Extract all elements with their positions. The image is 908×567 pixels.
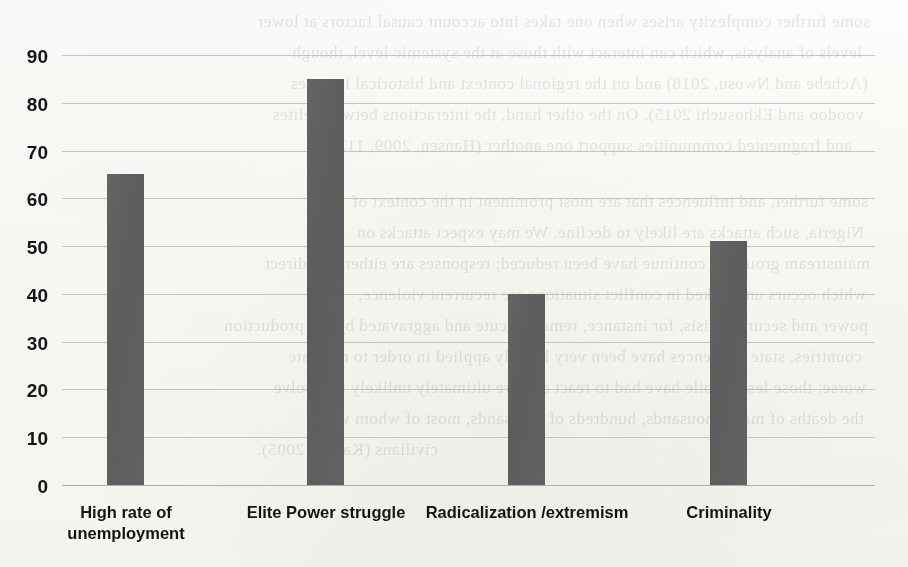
gridline-90	[62, 55, 875, 56]
bar-radicalization-extremism	[508, 294, 545, 485]
gridline-baseline-0	[62, 485, 875, 486]
gridline-50	[62, 246, 875, 247]
gridline-70	[62, 151, 875, 152]
x-axis-label-high-rate-of-unemployment: High rate of unemployment	[46, 502, 206, 544]
bar-elite-power-struggle	[307, 79, 344, 485]
gridline-30	[62, 342, 875, 343]
gridline-80	[62, 103, 875, 104]
x-axis-label-criminality: Criminality	[648, 502, 810, 523]
y-axis-tick-label: 60	[0, 190, 48, 209]
y-axis-tick-label: 70	[0, 143, 48, 162]
bar-high-rate-of-unemployment	[107, 174, 144, 485]
y-axis-tick-label: 0	[0, 477, 48, 496]
y-axis-tick-label: 90	[0, 47, 48, 66]
bar-criminality	[710, 241, 747, 485]
gridline-10	[62, 437, 875, 438]
gridline-40	[62, 294, 875, 295]
y-axis-tick-label: 20	[0, 381, 48, 400]
y-axis-tick-label: 30	[0, 334, 48, 353]
gridline-60	[62, 198, 875, 199]
y-axis-tick-label: 80	[0, 95, 48, 114]
x-axis-label-radicalization-extremism: Radicalization /extremism	[421, 502, 633, 523]
y-axis-tick-label: 40	[0, 286, 48, 305]
x-axis-label-elite-power-struggle: Elite Power struggle	[240, 502, 412, 523]
scanned-page: some further complexity arises when one …	[0, 0, 908, 567]
y-axis-tick-label: 50	[0, 238, 48, 257]
y-axis-tick-label: 10	[0, 429, 48, 448]
gridline-20	[62, 389, 875, 390]
bar-chart: 90 80 70 60 50 40 30 20 10 0 High rate o…	[0, 0, 908, 567]
